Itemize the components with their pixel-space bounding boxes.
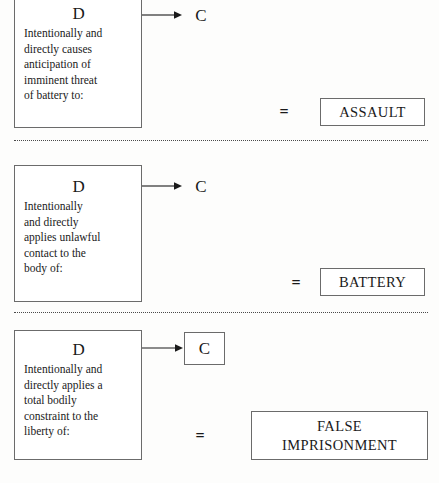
description-line: anticipation of (24, 57, 152, 73)
equals-sign-false-imprisonment: = (193, 428, 207, 444)
description-line: Intentionally and (24, 26, 152, 42)
section-divider-1 (14, 140, 428, 141)
description-line: and directly (24, 215, 152, 231)
description-line: of battery to: (24, 88, 152, 104)
claimant-box-false-imprisonment: C (184, 332, 225, 365)
equals-sign-battery: = (289, 275, 303, 291)
rightwards-arrow-icon (142, 9, 182, 21)
defendant-box-battery: D Intentionally and directly applies unl… (14, 165, 142, 302)
claimant-letter-assault: C (191, 7, 211, 24)
description-line: directly causes (24, 42, 152, 58)
defendant-letter: D (15, 341, 143, 358)
description-line: constraint to the (24, 409, 152, 425)
tort-label: IMPRISONMENT (282, 436, 397, 455)
defendant-box-assault: D Intentionally and directly causes anti… (14, 0, 142, 128)
rightwards-arrow-icon (142, 342, 183, 354)
description-line: applies unlawful (24, 230, 152, 246)
defendant-description-assault: Intentionally and directly causes antici… (15, 26, 157, 104)
tort-result-assault: ASSAULT (320, 98, 425, 126)
description-line: total bodily (24, 393, 152, 409)
description-line: directly applies a (24, 378, 152, 394)
description-line: liberty of: (24, 424, 152, 440)
description-line: body of: (24, 261, 152, 277)
tort-label: FALSE (317, 417, 362, 436)
claimant-letter-battery: C (191, 178, 211, 195)
description-line: contact to the (24, 246, 152, 262)
tort-label: ASSAULT (339, 103, 406, 121)
description-line: imminent threat (24, 73, 152, 89)
equals-sign-assault: = (277, 104, 291, 120)
defendant-box-false-imprisonment: D Intentionally and directly applies a t… (14, 330, 142, 460)
description-line: Intentionally (24, 199, 152, 215)
defendant-description-battery: Intentionally and directly applies unlaw… (15, 199, 157, 277)
claimant-letter: C (199, 340, 210, 357)
tort-result-battery: BATTERY (320, 268, 425, 296)
rightwards-arrow-icon (142, 180, 182, 192)
description-line: Intentionally and (24, 362, 152, 378)
defendant-description-false-imprisonment: Intentionally and directly applies a tot… (15, 362, 157, 440)
defendant-letter: D (15, 178, 143, 195)
section-divider-2 (14, 312, 428, 313)
tort-result-false-imprisonment: FALSE IMPRISONMENT (251, 411, 428, 460)
defendant-letter: D (15, 5, 143, 22)
torts-diagram: D Intentionally and directly causes anti… (0, 0, 439, 483)
tort-label: BATTERY (339, 273, 406, 291)
